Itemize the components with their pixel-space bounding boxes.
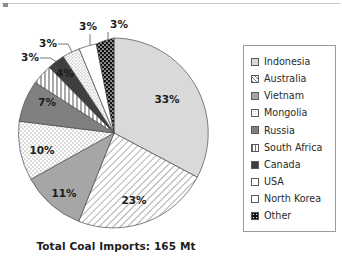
legend-swatch-australia [251,75,259,83]
pie-leader-usa [58,44,72,52]
legend-swatch-north-korea [251,195,259,203]
pie-callout-other: 3% [110,18,128,30]
chart-legend: Indonesia Australia Vietnam Mongolia Rus… [243,45,336,232]
legend-item-indonesia[interactable]: Indonesia [251,53,335,70]
legend-item-canada[interactable]: Canada [251,156,335,173]
legend-swatch-vietnam [251,92,259,100]
pie-label-australia: 23% [121,194,147,206]
pie-label-south-africa: 4% [56,67,74,79]
pie-chart: 33% 23% 11% 10% 7% 4% 3% 3% 3% 3% [0,14,232,238]
legend-item-mongolia[interactable]: Mongolia [251,105,335,122]
page-top-rule [2,3,340,4]
page-corner-mark [3,3,8,7]
legend-swatch-usa [251,178,259,186]
legend-label-russia: Russia [264,126,295,136]
legend-item-other[interactable]: Other [251,208,335,225]
chart-page: 33% 23% 11% 10% 7% 4% 3% 3% 3% 3% Total … [0,0,342,264]
legend-label-canada: Canada [264,160,301,170]
legend-item-vietnam[interactable]: Vietnam [251,87,335,104]
legend-label-north-korea: North Korea [264,194,321,204]
pie-label-russia: 7% [38,96,56,108]
legend-item-australia[interactable]: Australia [251,70,335,87]
legend-swatch-indonesia [251,58,259,66]
legend-label-other: Other [264,211,291,221]
legend-item-north-korea[interactable]: North Korea [251,191,335,208]
legend-swatch-other [251,212,259,220]
pie-label-mongolia: 10% [29,144,55,156]
legend-item-russia[interactable]: Russia [251,122,335,139]
pie-chart-svg: 33% 23% 11% 10% 7% 4% 3% 3% 3% 3% [0,14,232,238]
legend-swatch-south-africa [251,144,259,152]
pie-callout-north-korea: 3% [79,20,97,32]
pie-leader-canada [40,58,57,62]
legend-label-usa: USA [264,177,284,187]
chart-title: Total Coal Imports: 165 Mt [0,240,232,252]
legend-item-south-africa[interactable]: South Africa [251,139,335,156]
legend-label-indonesia: Indonesia [264,57,310,67]
legend-label-south-africa: South Africa [264,143,322,153]
legend-swatch-russia [251,126,259,134]
pie-callout-usa: 3% [39,37,57,49]
pie-callout-canada: 3% [21,51,39,63]
legend-swatch-canada [251,161,259,169]
legend-label-mongolia: Mongolia [264,108,307,118]
legend-swatch-mongolia [251,109,259,117]
legend-item-usa[interactable]: USA [251,173,335,190]
pie-label-indonesia: 33% [154,93,180,105]
legend-label-australia: Australia [264,74,306,84]
legend-label-vietnam: Vietnam [264,91,304,101]
pie-label-vietnam: 11% [51,187,77,199]
